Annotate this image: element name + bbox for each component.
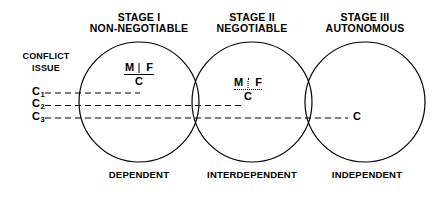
tick-label-c2: C2 — [32, 98, 45, 110]
tick-label-c3-sub: 3 — [40, 115, 44, 124]
notation-stage-1: MF C — [119, 61, 159, 87]
notation-stage-2-numerator: MF — [228, 76, 268, 89]
notation-stage-2: MF C — [228, 76, 268, 102]
tick-label-c3: C3 — [32, 111, 45, 123]
notation-stage-1-numerator-right: F — [146, 61, 153, 73]
stage-heading-3: STAGE III AUTONOMOUS — [310, 12, 420, 34]
notation-stage-1-denominator: C — [119, 75, 159, 87]
notation-stage-1-numerator: MF — [119, 61, 159, 74]
circle-stage-3 — [305, 42, 425, 162]
tick-label-c2-letter: C — [32, 97, 40, 109]
conflict-issue-label-line1: CONFLICT — [22, 51, 69, 61]
conflict-issue-label: CONFLICT ISSUE — [10, 50, 82, 74]
notation-stage-1-numerator-left: M — [125, 61, 134, 73]
stage-heading-2-line2: NEGOTIABLE — [199, 23, 305, 34]
notation-stage-2-numerator-right: F — [255, 76, 262, 88]
base-label-stage-2: INTERDEPENDENT — [194, 170, 310, 180]
tick-label-c2-sub: 2 — [40, 102, 44, 111]
stage-heading-1: STAGE I NON-NEGOTIABLE — [84, 12, 194, 34]
circle-stage-2 — [192, 42, 312, 162]
conflict-stages-diagram: STAGE I NON-NEGOTIABLE STAGE II NEGOTIAB… — [0, 0, 437, 197]
tick-label-c3-letter: C — [32, 110, 40, 122]
notation-stage-2-separator — [248, 78, 249, 88]
tick-label-c1: C1 — [32, 86, 45, 98]
stage-heading-3-line2: AUTONOMOUS — [310, 23, 420, 34]
tick-label-c1-letter: C — [32, 85, 40, 97]
notation-stage-2-numerator-left: M — [234, 76, 243, 88]
notation-stage-1-separator — [139, 63, 140, 73]
base-label-stage-1: DEPENDENT — [89, 170, 189, 180]
endpoint-label-c3: C — [353, 111, 361, 123]
circle-stage-1 — [79, 42, 199, 162]
stage-heading-2: STAGE II NEGOTIABLE — [199, 12, 305, 34]
stage-heading-1-line2: NON-NEGOTIABLE — [84, 23, 194, 34]
notation-stage-2-denominator: C — [228, 90, 268, 102]
base-label-stage-3: INDEPENDENT — [317, 170, 417, 180]
conflict-issue-label-line2: ISSUE — [32, 63, 60, 73]
